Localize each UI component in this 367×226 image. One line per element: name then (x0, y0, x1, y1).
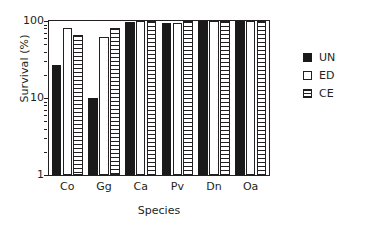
y-tick-minor (44, 138, 47, 139)
y-tick-minor (44, 61, 47, 62)
legend-item-un: UN (303, 50, 361, 65)
legend-swatch-un-icon (303, 53, 312, 62)
y-tick-minor (44, 121, 47, 122)
y-tick-minor (44, 105, 47, 106)
y-tick-minor (44, 152, 47, 153)
y-tick-minor (44, 33, 47, 34)
bar-oa-un (235, 21, 245, 175)
y-tick-label-10: 10 (0, 92, 44, 103)
bar-oa-ce (257, 21, 267, 175)
legend-item-ce: CE (303, 86, 361, 101)
legend-label-ce: CE (319, 88, 334, 99)
x-tick-label-pv: Pv (171, 180, 184, 193)
bar-dn-ce (220, 21, 230, 175)
bar-pv-ed (173, 23, 183, 175)
bar-pv-ce (183, 21, 193, 175)
y-tick-minor (44, 28, 47, 29)
x-tick-label-co: Co (60, 180, 74, 193)
y-tick-minor (44, 75, 47, 76)
x-tick-label-oa: Oa (243, 180, 258, 193)
bar-co-ce (73, 35, 83, 175)
bar-ca-un (125, 22, 135, 175)
y-tick-minor (44, 44, 47, 45)
legend: UNEDCE (303, 50, 361, 104)
y-tick-minor (44, 25, 47, 26)
y-tick-label-100: 100 (0, 15, 44, 26)
bar-dn-un (198, 21, 208, 175)
bar-ca-ce (147, 21, 157, 175)
x-tick-label-gg: Gg (96, 180, 112, 193)
x-axis-tick-labels: CoGgCaPvDnOa (48, 180, 270, 196)
y-tick-minor (44, 110, 47, 111)
bar-oa-ed (246, 21, 256, 175)
y-tick-label-1: 1 (0, 169, 44, 180)
bar-gg-un (88, 98, 98, 175)
legend-item-ed: ED (303, 68, 361, 83)
bars-layer (49, 21, 269, 175)
bar-gg-ce (110, 28, 120, 175)
plot-area (48, 20, 270, 176)
y-tick-minor (44, 115, 47, 116)
legend-swatch-ed-icon (303, 71, 312, 80)
figure: Survival (%) 100101 CoGgCaPvDnOa Species… (0, 0, 367, 226)
x-axis-title: Species (48, 204, 270, 217)
x-tick-label-dn: Dn (206, 180, 221, 193)
y-tick-minor (44, 38, 47, 39)
y-tick-minor (44, 102, 47, 103)
legend-swatch-ce-icon (303, 89, 312, 98)
y-tick-minor (44, 129, 47, 130)
bar-ca-ed (136, 21, 146, 175)
bar-co-ed (63, 28, 73, 175)
bar-dn-ed (209, 21, 219, 175)
y-tick-minor (44, 52, 47, 53)
x-tick-label-ca: Ca (133, 180, 147, 193)
bar-pv-un (162, 23, 172, 175)
bar-gg-ed (99, 37, 109, 175)
legend-label-un: UN (319, 52, 335, 63)
bar-co-un (52, 65, 62, 175)
legend-label-ed: ED (319, 70, 334, 81)
y-axis-tick-labels: 100101 (0, 20, 44, 176)
